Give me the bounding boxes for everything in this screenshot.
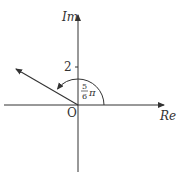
angle-denominator: 6 xyxy=(82,92,87,101)
complex-plane-diagram: Im Re O 2 5 6 π xyxy=(0,0,177,174)
origin-label: O xyxy=(67,106,77,120)
angle-numerator: 5 xyxy=(82,82,87,91)
angle-arc xyxy=(58,79,105,105)
angle-pi-symbol: π xyxy=(88,87,96,98)
real-axis-label: Re xyxy=(159,109,176,123)
tick-label-2: 2 xyxy=(64,60,72,74)
imaginary-axis-label: Im xyxy=(61,10,78,24)
vector-arrow xyxy=(16,69,78,105)
